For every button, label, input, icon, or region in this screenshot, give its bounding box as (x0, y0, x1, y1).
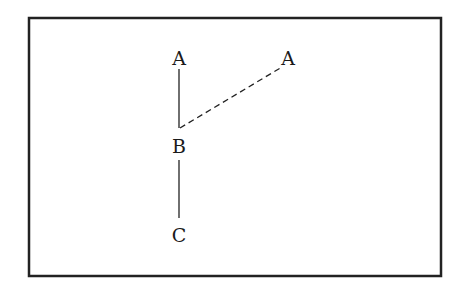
node-b: B (172, 135, 186, 157)
diagram-frame (29, 18, 441, 276)
node-a-right: A (280, 47, 295, 69)
node-a-left: A (171, 47, 186, 69)
edge-b-a-dashed (180, 67, 282, 128)
node-c: C (172, 224, 187, 246)
tree-diagram: A A B C (0, 0, 462, 284)
